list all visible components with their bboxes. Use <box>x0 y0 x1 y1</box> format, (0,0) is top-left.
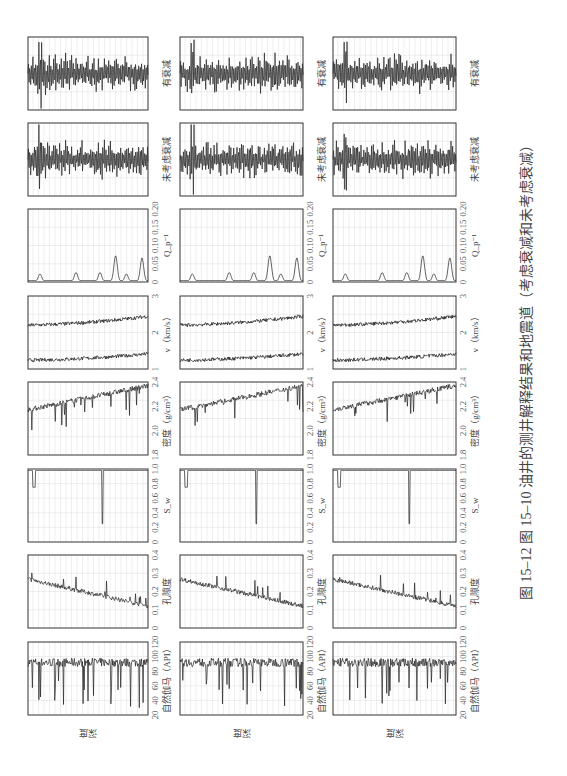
tick-label: 3 <box>150 294 160 298</box>
track-label: 密度（g/cm³） <box>161 390 172 447</box>
tick-label: 2.2 <box>150 401 160 412</box>
track-label: 密度（g/cm³） <box>469 390 480 447</box>
tick-label: 2.0 <box>150 425 160 436</box>
tick-label: 3 <box>305 294 315 298</box>
track-v: 123v（km/s） <box>180 294 327 371</box>
tick-label: 3 <box>458 294 468 298</box>
tick-label: 0.15 <box>458 220 468 235</box>
tick-label: 0.2 <box>458 586 468 597</box>
tick-label: 1 <box>150 367 160 371</box>
tick-label: 2.4 <box>150 376 160 387</box>
track-label: 孔隙度 <box>316 578 327 605</box>
track-sw: 00.20.40.60.81.0S_w <box>28 464 172 544</box>
track-label: 未考虑衰减 <box>469 137 480 182</box>
tick-label: 0.05 <box>458 256 468 271</box>
track-gr: 20406080100120自然伽马（API） <box>28 636 172 720</box>
track-label: 密度（g/cm³） <box>316 390 327 447</box>
tick-label: 80 <box>305 667 315 676</box>
track-phi: 00.10.20.30.4孔隙度 <box>333 549 480 630</box>
track-q: 00.050.100.150.20Q_p⁻¹ <box>180 202 327 285</box>
tick-label: 100 <box>305 650 315 663</box>
track-label: 有衰减 <box>161 60 172 87</box>
track-label: 自然伽马（API） <box>161 644 172 713</box>
track-label: v（km/s） <box>162 312 172 352</box>
track-label: 未考虑衰减 <box>316 137 327 182</box>
tick-label: 0.4 <box>458 549 468 560</box>
track-sw: 00.20.40.60.81.0S_w <box>333 464 480 544</box>
tick-label: 0 <box>305 626 315 630</box>
tick-label: 0 <box>458 540 468 544</box>
track-gr: 20406080100120自然伽马（API） <box>180 636 327 720</box>
tick-label: 2.4 <box>458 376 468 387</box>
figure-caption: 图 15–12 图 15–10 油井的测井解释结果和地震道（考虑衰减和未考虑衰减… <box>518 138 534 600</box>
track-seis1: 未考虑衰减 <box>333 123 480 196</box>
track-gr: 20406080100120自然伽马（API） <box>333 636 480 720</box>
tick-label: 0.2 <box>150 586 160 597</box>
tick-label: 0 <box>458 626 468 630</box>
track-label: 有衰减 <box>469 60 480 87</box>
tick-label: 0.4 <box>150 507 160 518</box>
tick-label: 20 <box>305 711 315 720</box>
tick-label: 0.1 <box>458 604 468 615</box>
track-v: 123v（km/s） <box>28 294 172 371</box>
tick-label: 0 <box>458 280 468 284</box>
tick-label: 0.6 <box>458 493 468 504</box>
tick-label: 0.05 <box>305 256 315 271</box>
tick-label: 0.2 <box>458 522 468 533</box>
tick-label: 1.0 <box>458 464 468 475</box>
tick-label: 0.1 <box>150 604 160 615</box>
tick-label: 0.3 <box>305 568 315 579</box>
tick-label: 0.20 <box>458 202 468 217</box>
tick-label: 0.3 <box>150 568 160 579</box>
tick-label: 0.10 <box>150 238 160 253</box>
tick-label: 0.20 <box>150 202 160 217</box>
tick-label: 0.05 <box>150 256 160 271</box>
tick-label: 60 <box>458 682 468 691</box>
tick-label: 2.0 <box>305 425 315 436</box>
track-label: Q_p⁻¹ <box>317 234 327 257</box>
track-seis2: 有衰减 <box>180 37 327 110</box>
tick-label: 60 <box>305 682 315 691</box>
tick-label: 0.10 <box>305 238 315 253</box>
tick-label: 0 <box>150 280 160 284</box>
tick-label: 1.0 <box>305 464 315 475</box>
tick-label: 80 <box>150 667 160 676</box>
tick-label: 0 <box>150 626 160 630</box>
tick-label: 0.8 <box>305 478 315 489</box>
track-seis1: 未考虑衰减 <box>28 123 172 196</box>
tick-label: 2.2 <box>305 401 315 412</box>
tick-label: 0.8 <box>150 478 160 489</box>
tick-label: 1.0 <box>150 464 160 475</box>
track-sw: 00.20.40.60.81.0S_w <box>180 464 327 544</box>
depth-label: 深度 <box>386 728 404 739</box>
tick-label: 1 <box>458 367 468 371</box>
track-label: Q_p⁻¹ <box>162 234 172 257</box>
tick-label: 0.20 <box>305 202 315 217</box>
tick-label: 0.2 <box>150 522 160 533</box>
tick-label: 0.4 <box>305 549 315 560</box>
tick-label: 80 <box>458 667 468 676</box>
tick-label: 1 <box>305 367 315 371</box>
tick-label: 0.8 <box>458 478 468 489</box>
tick-label: 0.3 <box>458 568 468 579</box>
track-q: 00.050.100.150.20Q_p⁻¹ <box>28 202 172 285</box>
tick-label: 120 <box>150 636 160 649</box>
tick-label: 0.2 <box>305 586 315 597</box>
tick-label: 2 <box>305 330 315 334</box>
tick-label: 0.4 <box>458 507 468 518</box>
tick-label: 0.15 <box>150 220 160 235</box>
depth-label: 深度 <box>233 728 251 739</box>
tick-label: 0.2 <box>305 522 315 533</box>
track-seis2: 有衰减 <box>28 37 172 110</box>
track-label: 自然伽马（API） <box>469 644 480 713</box>
track-label: 未考虑衰减 <box>161 137 172 182</box>
tick-label: 0.4 <box>150 549 160 560</box>
tick-label: 60 <box>150 682 160 691</box>
tick-label: 2.2 <box>458 401 468 412</box>
figure: 20406080100120自然伽马（API）00.10.20.30.4孔隙度0… <box>0 0 567 776</box>
track-seis1: 未考虑衰减 <box>180 123 327 196</box>
tick-label: 20 <box>150 711 160 720</box>
tick-label: 0.6 <box>305 493 315 504</box>
depth-label: 深度 <box>79 728 97 739</box>
track-label: Q_p⁻¹ <box>470 234 480 257</box>
